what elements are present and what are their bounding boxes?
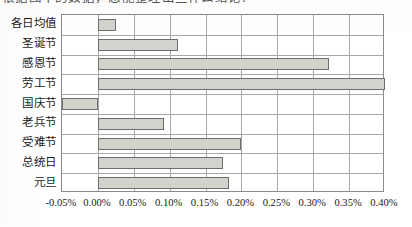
category-label-4: 劳工节 <box>0 77 56 90</box>
horizontal-bar-chart: 各日均值圣诞节感恩节劳工节国庆节老兵节受难节总统日元旦 -0.05%0.00%0… <box>0 9 412 227</box>
bar <box>98 138 241 150</box>
bar-row <box>62 134 383 154</box>
category-label-3: 感恩节 <box>0 57 56 70</box>
bar-row <box>62 35 383 55</box>
category-label-5: 国庆节 <box>0 97 56 110</box>
bar-row <box>62 15 383 35</box>
bar <box>98 157 223 169</box>
plot-area <box>61 14 384 192</box>
bar-row <box>62 94 383 114</box>
bar <box>98 58 329 70</box>
bar <box>62 98 98 110</box>
bar <box>98 177 229 189</box>
bar-row <box>62 153 383 173</box>
cut-off-heading-sliver: 根据图中的数据，您能整理出些什么结论？ <box>0 0 412 9</box>
bar-row <box>62 55 383 75</box>
category-label-6: 老兵节 <box>0 116 56 129</box>
bar-row <box>62 74 383 94</box>
bar <box>98 118 164 130</box>
category-label-7: 受难节 <box>0 136 56 149</box>
category-label-9: 元旦 <box>0 176 56 189</box>
bar-row <box>62 114 383 134</box>
bar <box>98 39 178 51</box>
category-label-1: 各日均值 <box>0 17 56 30</box>
bar <box>98 78 385 90</box>
category-label-2: 圣诞节 <box>0 37 56 50</box>
cut-off-heading-text: 根据图中的数据，您能整理出些什么结论？ <box>2 0 255 6</box>
category-label-8: 总统日 <box>0 156 56 169</box>
x-tick-label-10: 0.40% <box>361 197 407 209</box>
bar-row <box>62 173 383 193</box>
bar <box>98 19 116 31</box>
